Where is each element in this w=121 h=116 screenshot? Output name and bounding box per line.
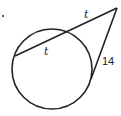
circle [12, 29, 92, 109]
external-segment-label: t [84, 8, 89, 21]
tangent-length-label: 14 [102, 55, 114, 67]
secant-tangent-diagram: t t 14 [0, 0, 121, 116]
internal-chord-label: t [44, 45, 49, 58]
period-dot [2, 15, 4, 17]
